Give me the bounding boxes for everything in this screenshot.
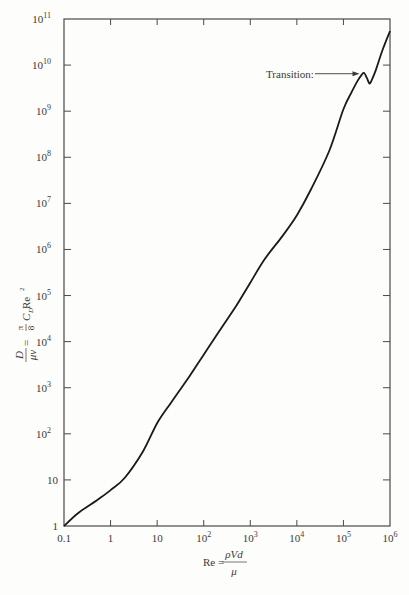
- y-label-eight: 8: [26, 325, 36, 330]
- y-tick-label: 10: [47, 474, 59, 486]
- y-tick-label: 103: [36, 380, 51, 394]
- x-tick-label: 0.1: [57, 532, 71, 544]
- y-label-sup: 2: [18, 287, 26, 291]
- x-tick-label: 103: [243, 530, 258, 544]
- x-tick-label: 10: [152, 532, 164, 544]
- y-tick-label: 109: [36, 103, 51, 117]
- series-line: [64, 31, 390, 526]
- x-label-lhs: Re =: [203, 556, 224, 568]
- y-label-c: C: [20, 313, 32, 321]
- x-tick-label: 105: [336, 530, 351, 544]
- y-tick-labels: 11010210310410510610710810910101011: [32, 11, 59, 532]
- y-tick-label: 107: [36, 195, 51, 209]
- annotation-text: Transition:: [266, 68, 314, 80]
- x-tick-label: 1: [108, 532, 114, 544]
- y-tick-label: 104: [36, 334, 51, 348]
- y-tick-label: 1010: [32, 57, 51, 71]
- x-tick-labels: 0.1110102103104105106: [57, 530, 397, 544]
- y-tick-label: 108: [36, 149, 51, 163]
- y-axis-label: D μν = π 8 C D Re 2: [13, 287, 38, 362]
- x-tick-label: 102: [196, 530, 211, 544]
- y-tick-label: 102: [36, 426, 51, 440]
- annotation-arrowhead: [353, 71, 360, 76]
- y-tick-label: 1: [53, 520, 59, 532]
- y-tick-label: 105: [36, 288, 51, 302]
- x-label-numerator: ρVd: [224, 548, 243, 560]
- drag-coefficient-chart: 0.1110102103104105106 110102103104105106…: [0, 0, 409, 595]
- tick-marks: [64, 19, 390, 526]
- y-label-lhs-num: D: [13, 351, 25, 360]
- x-tick-label: 104: [289, 530, 304, 544]
- x-label-denominator: μ: [230, 565, 237, 577]
- y-tick-label: 1011: [32, 11, 51, 25]
- y-label-re: Re: [20, 297, 32, 309]
- x-tick-label: 106: [383, 530, 398, 544]
- y-label-pi: π: [15, 325, 25, 330]
- plot-frame: [64, 19, 390, 526]
- y-tick-label: 106: [36, 241, 51, 255]
- y-label-lhs-den: μν: [26, 350, 38, 362]
- x-axis-label: Re = ρVd μ: [203, 548, 247, 577]
- y-label-eq: =: [20, 340, 32, 346]
- transition-annotation: Transition:: [266, 68, 360, 80]
